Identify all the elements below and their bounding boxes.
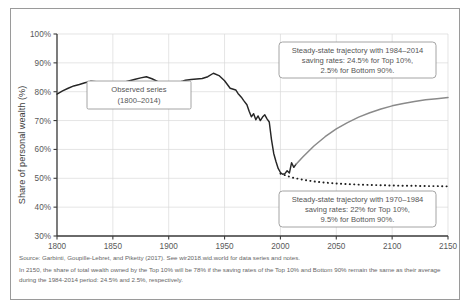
- y-tick-label: 30%: [35, 232, 51, 241]
- upper-projection-annotation-line-1: Steady-state trajectory with 1984–2014: [292, 46, 424, 55]
- x-tick-labels: 18001850190019502000205021002150: [48, 242, 458, 249]
- y-axis-title: Share of personal wealth (%): [17, 86, 27, 204]
- y-tick-labels: 30%40%50%60%70%80%90%100%: [30, 30, 51, 241]
- upper-projection-line: [296, 97, 448, 164]
- x-tick-label: 1850: [104, 242, 123, 249]
- figure-notes: Source: Garbinti, Goupille-Lebret, and P…: [11, 249, 461, 300]
- lower-projection-annotation: Steady-state trajectory with 1970–1984 s…: [279, 191, 436, 227]
- x-tick-label: 1950: [215, 242, 234, 249]
- observed-series-annotation: Observed series (1800–2014): [87, 81, 191, 109]
- observed-series-annotation-line-2: (1800–2014): [117, 96, 161, 105]
- x-tick-label: 2050: [327, 242, 346, 249]
- y-tick-label: 90%: [35, 59, 51, 68]
- y-axis: 30%40%50%60%70%80%90%100%: [30, 30, 57, 241]
- y-tick-label: 50%: [35, 174, 51, 183]
- y-tick-label: 80%: [35, 88, 51, 97]
- lower-projection-annotation-line-2: saving rates: 22% for Top 10%,: [305, 205, 410, 214]
- source-note: Source: Garbinti, Goupille-Lebret, and P…: [19, 253, 453, 262]
- wealth-share-line-chart: 30%40%50%60%70%80%90%100% 18001850190019…: [11, 9, 461, 249]
- upper-projection-annotation-line-2: saving rates: 24.5% for Top 10%,: [302, 56, 413, 65]
- x-tick-label: 1800: [48, 242, 67, 249]
- lower-projection-annotation-line-1: Steady-state trajectory with 1970–1984: [292, 195, 424, 204]
- lower-projection-annotation-line-3: 9.5% for Bottom 90%.: [321, 215, 395, 224]
- figure-frame: 30%40%50%60%70%80%90%100% 18001850190019…: [10, 8, 460, 300]
- x-tick-label: 2150: [439, 242, 458, 249]
- explanatory-note: In 2150, the share of total wealth owned…: [19, 265, 453, 284]
- x-tick-label: 2100: [383, 242, 402, 249]
- upper-projection-annotation: Steady-state trajectory with 1984–2014 s…: [279, 42, 436, 78]
- y-tick-label: 40%: [35, 203, 51, 212]
- chart-plot-area: 30%40%50%60%70%80%90%100% 18001850190019…: [11, 9, 461, 249]
- x-axis: 18001850190019502000205021002150: [48, 236, 458, 249]
- y-tick-label: 60%: [35, 145, 51, 154]
- y-tick-label: 70%: [35, 117, 51, 126]
- upper-projection-annotation-line-3: 2.5% for Bottom 90%.: [321, 66, 395, 75]
- y-tick-label: 100%: [30, 30, 51, 39]
- observed-series-annotation-line-1: Observed series: [111, 85, 166, 94]
- x-tick-label: 1900: [160, 242, 179, 249]
- lower-projection-line: [280, 174, 448, 187]
- x-tick-label: 2000: [271, 242, 290, 249]
